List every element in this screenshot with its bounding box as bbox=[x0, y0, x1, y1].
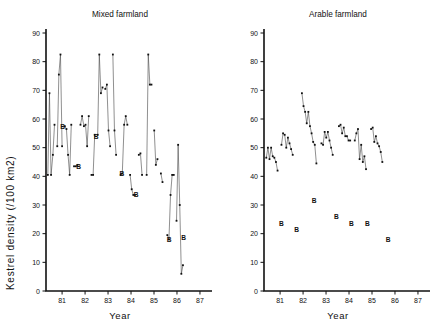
data-point bbox=[138, 154, 140, 156]
x-tick-label: 87 bbox=[414, 297, 422, 304]
data-point bbox=[267, 147, 269, 149]
data-point bbox=[147, 54, 149, 56]
x-axis-ticks: 81828384858687 bbox=[58, 291, 204, 304]
data-point bbox=[182, 264, 184, 266]
y-tick-label: 40 bbox=[32, 173, 40, 180]
kestrel-density-figure: Kestrel density (/100 km2) Mixed farmlan… bbox=[0, 0, 447, 324]
breeding-markers: BBBBBBB bbox=[60, 123, 186, 243]
data-point bbox=[332, 154, 334, 156]
data-point bbox=[112, 54, 114, 56]
data-point bbox=[315, 163, 317, 165]
data-point bbox=[372, 127, 374, 129]
data-point bbox=[83, 125, 85, 127]
data-point bbox=[67, 154, 69, 156]
data-point bbox=[377, 142, 379, 144]
data-point bbox=[340, 124, 342, 126]
breeding-marker: B bbox=[94, 133, 99, 140]
data-point bbox=[381, 161, 383, 163]
data-line bbox=[321, 132, 332, 155]
panel-title: Mixed farmland bbox=[92, 10, 148, 19]
data-point bbox=[92, 174, 94, 176]
data-point bbox=[364, 155, 366, 157]
data-line bbox=[147, 55, 152, 175]
axis-lines bbox=[264, 29, 430, 291]
data-point bbox=[277, 170, 279, 172]
data-point bbox=[273, 157, 275, 159]
x-tick-label: 83 bbox=[104, 297, 112, 304]
data-point bbox=[378, 145, 380, 147]
breeding-markers: BBBBBBB bbox=[279, 197, 391, 243]
data-line bbox=[177, 145, 183, 274]
data-point bbox=[270, 147, 272, 149]
data-line bbox=[281, 133, 292, 155]
data-point bbox=[344, 135, 346, 137]
data-point bbox=[108, 130, 110, 132]
x-axis-ticks: 81828384858687 bbox=[276, 291, 422, 304]
y-tick-label: 10 bbox=[250, 259, 258, 266]
data-point bbox=[287, 137, 289, 139]
data-point bbox=[98, 54, 100, 56]
x-axis-label: Year bbox=[327, 310, 349, 321]
x-axis-label: Year bbox=[109, 310, 131, 321]
data-point bbox=[265, 157, 267, 159]
data-point bbox=[69, 174, 71, 176]
data-point bbox=[151, 84, 153, 86]
data-point bbox=[157, 158, 159, 160]
y-axis-label: Kestrel density (/100 km2) bbox=[5, 156, 16, 290]
data-lines bbox=[48, 55, 183, 274]
data-point bbox=[281, 144, 283, 146]
breeding-marker: B bbox=[279, 220, 284, 227]
data-point bbox=[325, 137, 327, 139]
x-tick-label: 85 bbox=[150, 297, 158, 304]
data-point bbox=[171, 174, 173, 176]
x-tick-label: 81 bbox=[276, 297, 284, 304]
data-points bbox=[265, 92, 383, 171]
data-point bbox=[125, 115, 127, 117]
data-point bbox=[314, 144, 316, 146]
y-tick-label: 20 bbox=[250, 230, 258, 237]
data-point bbox=[355, 132, 357, 134]
data-point bbox=[126, 124, 128, 126]
data-point bbox=[307, 111, 309, 113]
y-tick-label: 80 bbox=[32, 58, 40, 65]
data-point bbox=[49, 92, 51, 94]
data-point bbox=[146, 174, 148, 176]
breeding-marker: B bbox=[181, 234, 186, 241]
data-point bbox=[357, 128, 359, 130]
data-point bbox=[81, 115, 83, 117]
data-point bbox=[56, 145, 58, 147]
data-point bbox=[269, 158, 271, 160]
data-point bbox=[180, 273, 182, 275]
data-line bbox=[371, 128, 382, 162]
panel-mixed-farmland: Mixed farmland 0102030405060708090 81828… bbox=[32, 10, 212, 321]
x-tick-label: 85 bbox=[368, 297, 376, 304]
x-tick-label: 81 bbox=[58, 297, 66, 304]
y-axis-ticks: 0102030405060708090 bbox=[32, 30, 46, 295]
data-point bbox=[346, 135, 348, 137]
data-point bbox=[149, 84, 151, 86]
data-point bbox=[80, 124, 82, 126]
y-tick-label: 90 bbox=[32, 30, 40, 37]
data-point bbox=[50, 174, 52, 176]
y-tick-label: 50 bbox=[32, 144, 40, 151]
data-point bbox=[380, 151, 382, 153]
data-point bbox=[141, 174, 143, 176]
data-point bbox=[176, 220, 178, 222]
data-line bbox=[302, 93, 316, 163]
data-point bbox=[321, 142, 323, 144]
data-point bbox=[60, 54, 62, 56]
axis-lines bbox=[46, 29, 212, 291]
y-tick-label: 20 bbox=[32, 230, 40, 237]
data-point bbox=[102, 87, 104, 89]
data-points bbox=[47, 54, 184, 275]
data-point bbox=[58, 74, 60, 76]
data-line bbox=[65, 125, 71, 175]
data-point bbox=[348, 140, 350, 142]
y-tick-label: 50 bbox=[250, 144, 258, 151]
data-point bbox=[52, 154, 54, 156]
data-line bbox=[139, 153, 142, 175]
y-tick-label: 0 bbox=[254, 288, 258, 295]
y-tick-label: 80 bbox=[250, 58, 258, 65]
data-point bbox=[272, 155, 274, 157]
x-tick-label: 86 bbox=[391, 297, 399, 304]
